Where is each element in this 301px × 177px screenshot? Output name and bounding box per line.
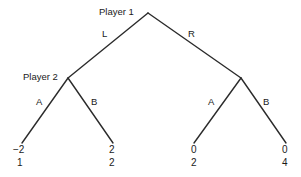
edge-left-a [22,78,68,143]
edge-root-left [68,13,148,78]
edge-right-b [241,78,286,143]
player2-label: Player 2 [23,72,58,82]
payoff-leaf2-player2: 2 [109,158,115,168]
player1-label: Player 1 [99,7,134,17]
payoff-leaf4-player2: 4 [282,158,288,168]
action-label-root-right: R [188,29,195,39]
game-tree-figure: Player 1 Player 2 L R A B A B −2 1 2 2 0… [0,0,301,177]
action-label-right-a: A [208,97,214,107]
action-label-left-b: B [91,97,97,107]
edge-root-right [148,13,241,78]
payoff-leaf1-player1: −2 [13,145,24,155]
action-label-left-a: A [36,97,42,107]
edge-left-b [68,78,113,143]
payoff-leaf3-player2: 2 [191,158,197,168]
action-label-right-b: B [263,97,269,107]
payoff-leaf3-player1: 0 [191,145,197,155]
tree-edges [0,0,301,177]
action-label-root-left: L [102,29,107,39]
payoff-leaf2-player1: 2 [109,145,115,155]
edge-right-a [194,78,241,143]
payoff-leaf4-player1: 0 [282,145,288,155]
payoff-leaf1-player2: 1 [17,158,23,168]
